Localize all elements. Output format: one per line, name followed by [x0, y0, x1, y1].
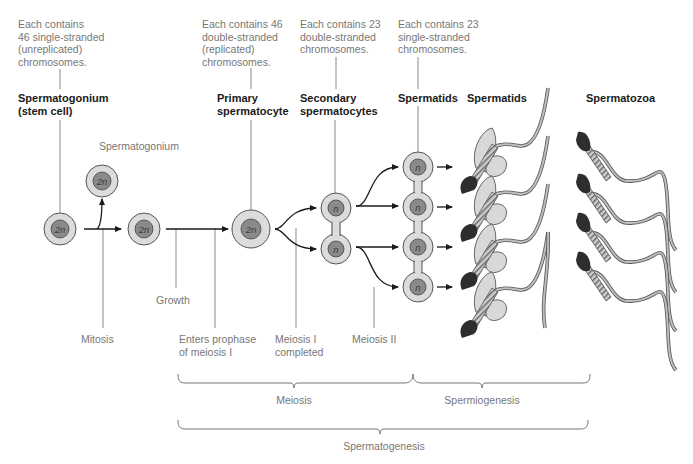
svg-text:n: n — [415, 162, 420, 173]
diagram-graphics: 2n 2n 2n 2n n n — [0, 0, 693, 464]
bracket-meiosis — [178, 374, 413, 388]
bracket-spermatogenesis — [178, 420, 588, 434]
cell-spermatogonium-stem: 2n — [44, 213, 76, 245]
svg-text:n: n — [333, 244, 338, 255]
brackets — [178, 374, 590, 434]
svg-text:n: n — [415, 202, 420, 213]
svg-text:2n: 2n — [138, 224, 150, 235]
spermatozoa-cells — [576, 132, 676, 370]
cell-spermatogonium-daughter: 2n — [86, 165, 118, 197]
svg-text:n: n — [415, 282, 420, 293]
cells-secondary-spermatocytes: n n — [321, 193, 351, 264]
cells-spermatids-chain: n n n n — [403, 152, 433, 302]
cell-primary-spermatocyte: 2n — [232, 210, 270, 248]
svg-text:2n: 2n — [245, 224, 257, 235]
svg-text:2n: 2n — [54, 224, 66, 235]
cell-spermatogonium-committed: 2n — [128, 213, 160, 245]
svg-text:n: n — [415, 242, 420, 253]
spermatogenesis-diagram: Each contains 46 single-stranded (unrepl… — [0, 0, 693, 464]
svg-text:n: n — [333, 203, 338, 214]
developing-spermatids — [460, 88, 548, 338]
svg-text:2n: 2n — [96, 176, 108, 187]
bracket-spermiogenesis — [413, 374, 590, 388]
